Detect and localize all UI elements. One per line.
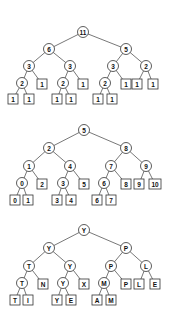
internal-node: 2 [44,143,55,154]
internal-node: 5 [79,125,90,136]
letter-tree: YYPTYPLTNYXMPLETIYEAM [10,225,160,306]
internal-node: 8 [121,143,132,154]
node-label: 8 [124,145,128,152]
leaf-node: 0 [10,195,20,205]
node-label: P [124,245,129,252]
leaf-node: N [38,279,48,289]
node-label: 9 [137,181,141,188]
node-label: 7 [109,197,113,204]
internal-node: 4 [65,161,76,172]
node-label: 3 [61,180,65,187]
node-label: M [101,280,106,287]
node-label: 2 [20,80,24,87]
node-label: A [95,297,100,304]
node-label: 8 [124,181,128,188]
internal-node: P [106,261,117,272]
count-tree: 1165333221212111111111 [8,27,158,105]
internal-node: 2 [141,61,152,72]
leaf-node: A [92,295,102,305]
node-label: 1 [69,96,73,103]
tree-edge [49,130,84,148]
node-label: M [108,297,113,304]
node-label: 2 [144,63,148,70]
node-label: 2 [47,145,51,152]
node-label: 1 [40,81,44,88]
node-label: P [109,263,114,270]
leaf-node: 1 [24,94,34,104]
internal-node: 0 [17,178,28,189]
leaf-node: P [121,279,131,289]
node-label: Y [61,280,66,287]
node-label: 1 [55,96,59,103]
internal-node: 3 [65,61,76,72]
node-label: 0 [13,197,17,204]
internal-node: 11 [78,27,89,38]
leaf-node: 8 [121,179,131,189]
leaf-node: 1 [132,79,142,89]
internal-node: 3 [24,61,35,72]
tree-edge [84,230,126,248]
node-label: 10 [151,181,159,188]
node-label: 1 [124,81,128,88]
internal-node: 2 [58,78,69,89]
node-label: L [144,263,148,270]
node-label: X [82,281,87,288]
internal-node: 9 [141,161,152,172]
leaf-node: Y [52,295,62,305]
internal-node: M [99,278,110,289]
internal-node: T [17,278,28,289]
tree-diagrams: 1165333221212111111111528147902356891001… [0,0,169,321]
leaf-node: 4 [66,195,76,205]
node-label: 2 [61,80,65,87]
leaf-node: L [134,279,144,289]
leaf-node: 9 [134,179,144,189]
node-label: T [13,297,17,304]
leaf-node: 1 [52,94,62,104]
node-label: 11 [80,29,87,36]
node-label: Y [47,245,52,252]
tree-edge [49,230,84,248]
leaf-node: 1 [78,79,88,89]
node-label: N [41,281,46,288]
internal-node: Y [79,225,90,236]
leaf-node: 1 [93,94,103,104]
node-label: 1 [27,96,31,103]
node-label: P [124,281,129,288]
index-tree: 5281479023568910013467 [10,125,161,206]
node-label: 1 [151,81,155,88]
node-label: 1 [27,163,31,170]
internal-node: 5 [121,44,132,55]
node-label: Y [55,297,60,304]
leaf-node: E [150,279,160,289]
leaf-node: 3 [52,195,62,205]
node-label: 1 [96,96,100,103]
node-label: 4 [69,197,73,204]
node-label: 7 [109,163,113,170]
internal-node: 3 [58,178,69,189]
node-label: Y [68,263,73,270]
internal-node: Y [65,261,76,272]
leaf-node: I [23,295,33,305]
node-label: 3 [55,197,59,204]
leaf-node: 1 [8,94,18,104]
node-label: E [69,297,74,304]
node-label: 1 [26,197,30,204]
node-label: 1 [135,81,139,88]
tree-edge [83,32,126,49]
internal-node: 2 [100,78,111,89]
internal-node: Y [58,278,69,289]
internal-node: 2 [17,78,28,89]
leaf-node: 1 [23,195,33,205]
leaf-node: 1 [66,94,76,104]
leaf-node: E [66,295,76,305]
node-label: 3 [111,63,115,70]
internal-node: 6 [44,44,55,55]
internal-node: P [121,243,132,254]
node-label: 2 [40,181,44,188]
leaf-node: 1 [107,94,117,104]
leaf-node: 5 [79,179,89,189]
internal-node: 3 [108,61,119,72]
node-label: 1 [11,96,15,103]
node-label: 4 [68,163,72,170]
node-label: I [27,297,29,304]
